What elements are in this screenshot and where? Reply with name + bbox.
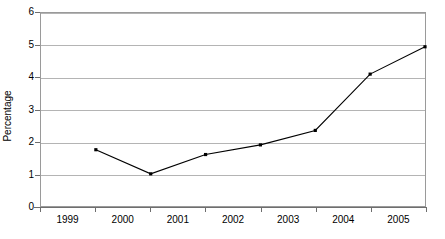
x-tick-mark-3: [205, 207, 206, 212]
y-tick-label-5: 5: [18, 40, 34, 50]
y-axis-title: Percentage: [2, 76, 13, 156]
y-tick-label-1: 1: [18, 170, 34, 180]
y-axis-tick-labels: 0123456: [14, 0, 34, 239]
x-tick-label-2001: 2001: [150, 214, 206, 226]
x-tick-label-1999: 1999: [40, 214, 96, 226]
data-point-2002: [259, 143, 262, 146]
x-tick-label-2004: 2004: [315, 214, 371, 226]
data-point-2005: [423, 45, 426, 48]
data-point-2003: [314, 129, 317, 132]
line-chart: Percentage 0123456 199920002001200220032…: [0, 0, 445, 239]
y-tick-label-6: 6: [18, 7, 34, 17]
x-tick-mark-4: [261, 207, 262, 212]
series-markers: [94, 45, 426, 175]
x-tick-label-2003: 2003: [260, 214, 316, 226]
x-tick-label-2002: 2002: [205, 214, 261, 226]
series-layer: [41, 13, 425, 206]
y-tick-label-3: 3: [18, 105, 34, 115]
x-tick-mark-0: [40, 207, 41, 212]
x-tick-label-2000: 2000: [95, 214, 151, 226]
x-tick-label-2005: 2005: [370, 214, 426, 226]
x-tick-mark-1: [95, 207, 96, 212]
y-tick-label-0: 0: [18, 202, 34, 212]
x-tick-mark-5: [316, 207, 317, 212]
y-tick-label-4: 4: [18, 72, 34, 82]
x-tick-mark-6: [371, 207, 372, 212]
x-tick-mark-7: [426, 207, 427, 212]
x-tick-mark-2: [150, 207, 151, 212]
data-point-2000: [149, 172, 152, 175]
series-line-percentage: [96, 47, 425, 174]
data-point-1999: [94, 148, 97, 151]
x-axis-line: [34, 207, 426, 208]
plot-area: [40, 12, 426, 207]
data-point-2001: [204, 153, 207, 156]
data-point-2004: [369, 73, 372, 76]
y-tick-label-2: 2: [18, 137, 34, 147]
